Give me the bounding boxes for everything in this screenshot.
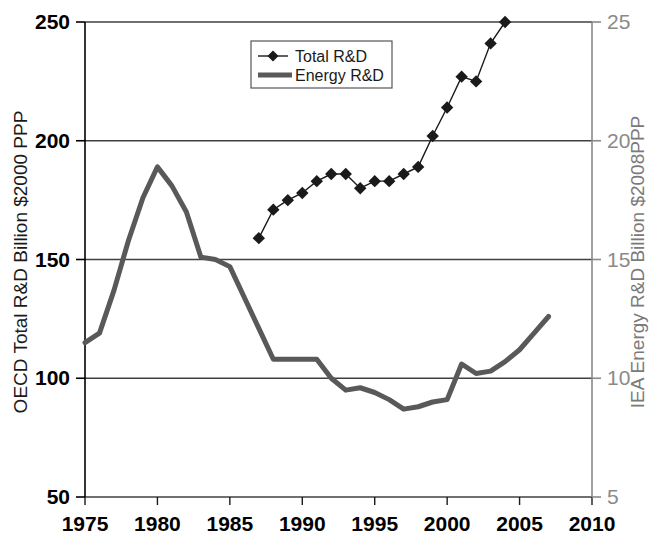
x-axis-tick-label: 1990 [279, 512, 326, 535]
y-axis-left-tick-label: 150 [35, 248, 70, 271]
y-axis-left-tick-label: 200 [35, 129, 70, 152]
y-axis-right-tick-label: 5 [607, 485, 619, 508]
x-axis-tick-label: 1980 [134, 512, 181, 535]
x-axis-tick-label: 1985 [206, 512, 253, 535]
x-axis-tick-label: 1975 [62, 512, 109, 535]
y-axis-left-tick-label: 250 [35, 10, 70, 33]
legend-label-energy-rd: Energy R&D [295, 67, 384, 84]
x-axis-tick-label: 2005 [496, 512, 543, 535]
x-axis-tick-label: 2010 [569, 512, 616, 535]
y-axis-right-tick-label: 25 [607, 10, 630, 33]
x-axis-tick-label: 2000 [424, 512, 471, 535]
y-axis-left-tick-label: 100 [35, 366, 70, 389]
chart-container: 19751980198519901995200020052010 5010015… [0, 0, 653, 538]
y-axis-left-tick-label: 50 [47, 485, 70, 508]
legend-label-total-rd: Total R&D [295, 48, 367, 65]
x-axis-tick-label: 1995 [351, 512, 398, 535]
chart-legend: Total R&D Energy R&D [251, 41, 392, 88]
y-axis-right-title: IEA Energy R&D Billion $2008PPP [627, 116, 648, 409]
y-axis-left-title: OECD Total R&D Billion $2000 PPP [10, 111, 31, 414]
chart-canvas: 19751980198519901995200020052010 5010015… [0, 0, 653, 538]
